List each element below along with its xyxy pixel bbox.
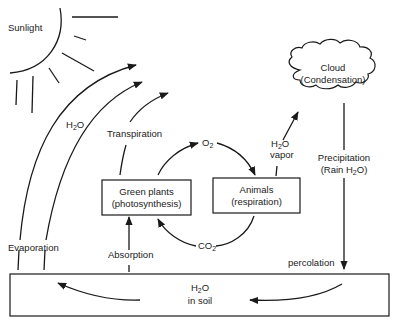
water-cycle-diagram: Sunlight H2O Evaporation Transpiration G…	[0, 0, 394, 322]
soil-label: in soil	[188, 295, 212, 306]
co2-label: CO2	[198, 240, 216, 252]
precipitation-label: Precipitation	[318, 152, 370, 163]
vapor-stem	[276, 166, 277, 176]
absorption-label: Absorption	[108, 249, 153, 260]
transpiration-label: Transpiration	[107, 128, 162, 139]
svg-text:(Condensation): (Condensation)	[301, 74, 366, 85]
cloud-icon: Cloud (Condensation)	[289, 39, 375, 88]
vapor-arrow	[283, 112, 298, 140]
svg-text:Green plants: Green plants	[119, 186, 174, 197]
green-plants-box: Green plants (photosynthesis)	[102, 180, 191, 215]
soil-box: H2O in soil	[10, 274, 389, 316]
svg-text:Cloud: Cloud	[321, 62, 346, 73]
svg-text:Animals: Animals	[240, 184, 274, 195]
o2-arrow	[158, 143, 198, 175]
sunlight-label: Sunlight	[8, 22, 43, 33]
o2-label: O2	[202, 137, 213, 149]
vapor-label: vapor	[270, 149, 294, 160]
h2o-label: H2O	[66, 119, 84, 131]
rain-label: (Rain H2O)	[321, 164, 368, 176]
animals-box: Animals (respiration)	[213, 178, 300, 213]
evaporation-label: Evaporation	[8, 242, 59, 253]
svg-text:(respiration): (respiration)	[231, 196, 282, 207]
co2-arrow	[216, 216, 254, 246]
percolation-label: percolation	[288, 257, 334, 268]
svg-text:(photosynthesis): (photosynthesis)	[112, 198, 182, 209]
